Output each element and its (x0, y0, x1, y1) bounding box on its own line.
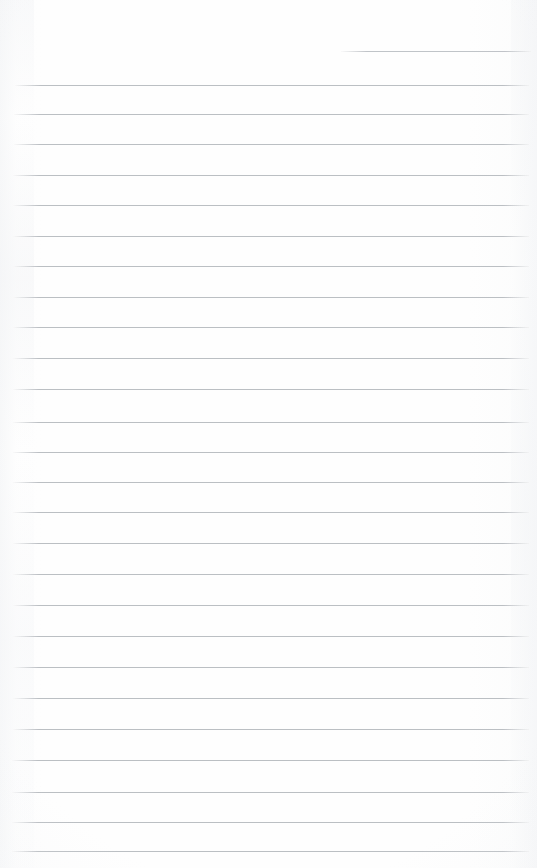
writing-area[interactable] (13, 60, 529, 860)
notebook-page (0, 0, 537, 868)
ruled-line-partial (341, 51, 531, 52)
